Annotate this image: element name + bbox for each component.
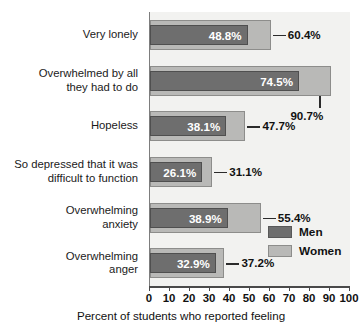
category-label: Overwhelming anger xyxy=(0,250,138,277)
legend-swatch-women xyxy=(268,245,292,257)
bar-men: 26.1% xyxy=(150,162,202,182)
x-axis-tick-label: 0 xyxy=(146,292,152,304)
leader-line xyxy=(214,172,227,174)
x-axis-tick-label: 100 xyxy=(339,292,358,304)
x-axis-title: Percent of students who reported feeling xyxy=(0,309,362,322)
bar-value-label-men: 48.8% xyxy=(209,28,242,41)
bar-men: 38.9% xyxy=(150,208,228,228)
bar-value-label-men: 74.5% xyxy=(260,74,293,87)
chart-legend: MenWomen xyxy=(268,225,341,263)
x-axis-tick xyxy=(229,286,230,291)
cropped-title-sliver xyxy=(0,0,362,4)
x-axis-tick xyxy=(149,286,150,291)
bar-value-label-women: 60.4% xyxy=(288,28,321,41)
bar-chart: Very lonelyOverwhelmed by all they had t… xyxy=(0,0,362,329)
bar-value-label-women: 31.1% xyxy=(229,165,262,178)
legend-item: Women xyxy=(268,244,341,258)
legend-swatch-men xyxy=(268,226,292,238)
leader-line xyxy=(273,35,286,37)
bar-value-label-men: 38.9% xyxy=(189,211,222,224)
x-axis-tick-label: 80 xyxy=(303,292,316,304)
x-axis-tick-label: 90 xyxy=(323,292,336,304)
bar-men: 32.9% xyxy=(150,253,216,273)
category-label: Overwhelming anxiety xyxy=(0,204,138,231)
x-axis-tick-label: 60 xyxy=(263,292,276,304)
bar-men: 74.5% xyxy=(150,71,299,91)
legend-label: Men xyxy=(299,225,323,239)
bar-value-label-men: 38.1% xyxy=(187,120,220,133)
x-axis-tick xyxy=(269,286,270,291)
x-axis-tick xyxy=(249,286,250,291)
x-axis-tick-label: 40 xyxy=(223,292,236,304)
bar-value-label-women: 55.4% xyxy=(278,211,311,224)
category-label: Overwhelmed by all they had to do xyxy=(0,67,138,94)
category-axis-labels: Very lonelyOverwhelmed by all they had t… xyxy=(0,12,144,286)
category-label: Very lonely xyxy=(0,28,138,41)
bar-value-label-men: 32.9% xyxy=(177,257,210,270)
leader-line xyxy=(226,263,239,265)
x-axis-tick-label: 70 xyxy=(283,292,296,304)
x-axis-tick xyxy=(289,286,290,291)
x-axis-tick xyxy=(329,286,330,291)
x-axis-tick xyxy=(349,286,350,291)
bar-men: 38.1% xyxy=(150,116,226,136)
x-axis-tick-label: 30 xyxy=(203,292,216,304)
x-axis-tick xyxy=(189,286,190,291)
bar-value-label-women: 90.7% xyxy=(290,109,323,122)
x-axis-tick xyxy=(309,286,310,291)
leader-line xyxy=(263,218,276,220)
bar-value-label-women: 47.7% xyxy=(262,119,295,132)
bar-men: 48.8% xyxy=(150,25,248,45)
category-label: So depressed that it was difficult to fu… xyxy=(0,158,138,185)
leader-line xyxy=(247,126,260,128)
x-axis-tick xyxy=(209,286,210,291)
category-label: Hopeless xyxy=(0,119,138,132)
legend-label: Women xyxy=(299,244,341,258)
x-axis-tick-label: 10 xyxy=(163,292,176,304)
x-axis-tick xyxy=(169,286,170,291)
legend-item: Men xyxy=(268,225,341,239)
x-axis-tick-label: 20 xyxy=(183,292,196,304)
bar-value-label-men: 26.1% xyxy=(163,165,196,178)
leader-line xyxy=(319,96,321,108)
x-axis-tick-label: 50 xyxy=(243,292,256,304)
